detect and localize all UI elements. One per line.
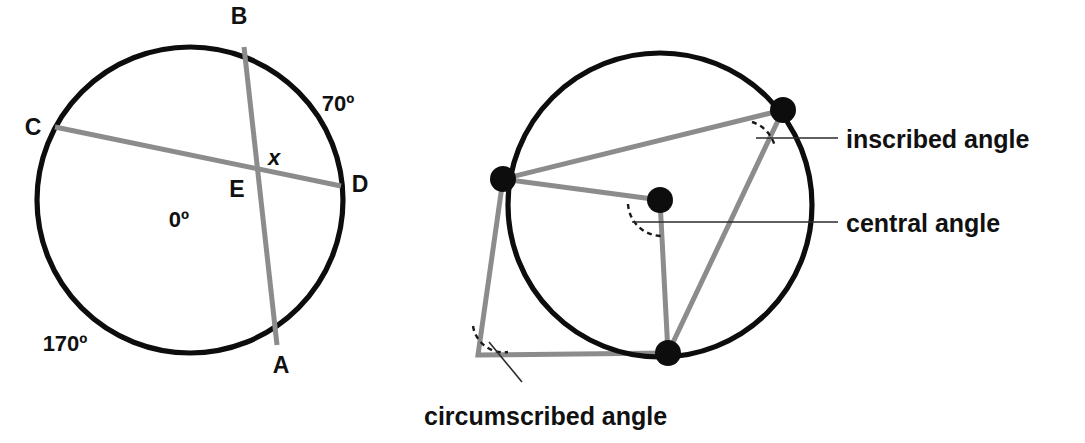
figure-canvas: B C D A E x 70º 0º 170º bbox=[0, 0, 1085, 443]
right-diagram: inscribed angle central angle circumscri… bbox=[424, 53, 1029, 430]
label-point-e: E bbox=[229, 176, 244, 202]
label-arc-0: 0º bbox=[169, 207, 189, 232]
callout-central-angle: central angle bbox=[846, 209, 1000, 237]
callout-inscribed-angle: inscribed angle bbox=[846, 125, 1029, 153]
vertex-dot-left bbox=[490, 166, 516, 192]
label-arc-170: 170º bbox=[43, 331, 88, 356]
vertex-dot-center bbox=[647, 187, 673, 213]
label-point-d: D bbox=[352, 171, 369, 197]
vertex-dot-top-right bbox=[770, 97, 796, 123]
left-diagram: B C D A E x 70º 0º 170º bbox=[25, 3, 369, 378]
callout-circumscribed-angle: circumscribed angle bbox=[424, 402, 667, 430]
label-point-b: B bbox=[231, 3, 248, 29]
label-point-c: C bbox=[25, 114, 42, 140]
circle-angles-figure: B C D A E x 70º 0º 170º bbox=[0, 0, 1085, 443]
label-arc-70: 70º bbox=[322, 91, 355, 116]
chord-cd bbox=[55, 127, 341, 186]
central-angle-rays bbox=[503, 179, 668, 353]
chord-ba bbox=[244, 47, 277, 345]
circumscribed-leader-line bbox=[489, 342, 522, 382]
label-point-a: A bbox=[273, 352, 290, 378]
label-angle-x: x bbox=[267, 145, 281, 170]
left-circle-outline bbox=[37, 47, 343, 353]
vertex-dot-bottom bbox=[655, 340, 681, 366]
